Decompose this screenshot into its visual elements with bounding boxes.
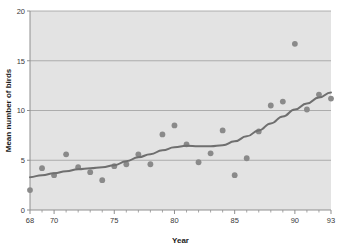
- x-tick-label-80: 80: [170, 216, 178, 225]
- data-point: [39, 165, 45, 171]
- y-tick-label-10: 10: [17, 106, 25, 115]
- data-point: [268, 103, 274, 109]
- data-point: [63, 151, 69, 157]
- data-point: [196, 159, 202, 165]
- chart-figure: 0510152068707580859093YearMean number of…: [0, 0, 341, 251]
- x-tick-label-90: 90: [291, 216, 299, 225]
- y-tick-label-20: 20: [17, 7, 25, 16]
- data-point: [99, 177, 105, 183]
- y-axis-title: Mean number of birds: [4, 68, 13, 152]
- data-point: [220, 127, 226, 133]
- x-tick-label-75: 75: [110, 216, 118, 225]
- data-point: [280, 99, 286, 105]
- data-point: [232, 172, 238, 178]
- y-tick-label-0: 0: [21, 206, 25, 215]
- data-point: [160, 131, 166, 137]
- y-tick-label-15: 15: [17, 57, 25, 66]
- y-tick-label-5: 5: [21, 156, 25, 165]
- data-point: [172, 123, 178, 129]
- x-tick-label-93: 93: [327, 216, 335, 225]
- scatter-plot-svg: 0510152068707580859093YearMean number of…: [0, 0, 341, 251]
- x-tick-label-70: 70: [50, 216, 58, 225]
- x-axis-title: Year: [172, 236, 189, 245]
- x-tick-label-68: 68: [26, 216, 34, 225]
- x-tick-label-85: 85: [231, 216, 239, 225]
- data-point: [244, 155, 250, 161]
- data-point: [328, 96, 334, 102]
- data-point: [87, 169, 93, 175]
- data-point: [148, 161, 154, 167]
- data-point: [27, 187, 33, 193]
- data-point: [304, 107, 310, 113]
- data-point: [292, 41, 298, 47]
- data-point: [208, 150, 214, 156]
